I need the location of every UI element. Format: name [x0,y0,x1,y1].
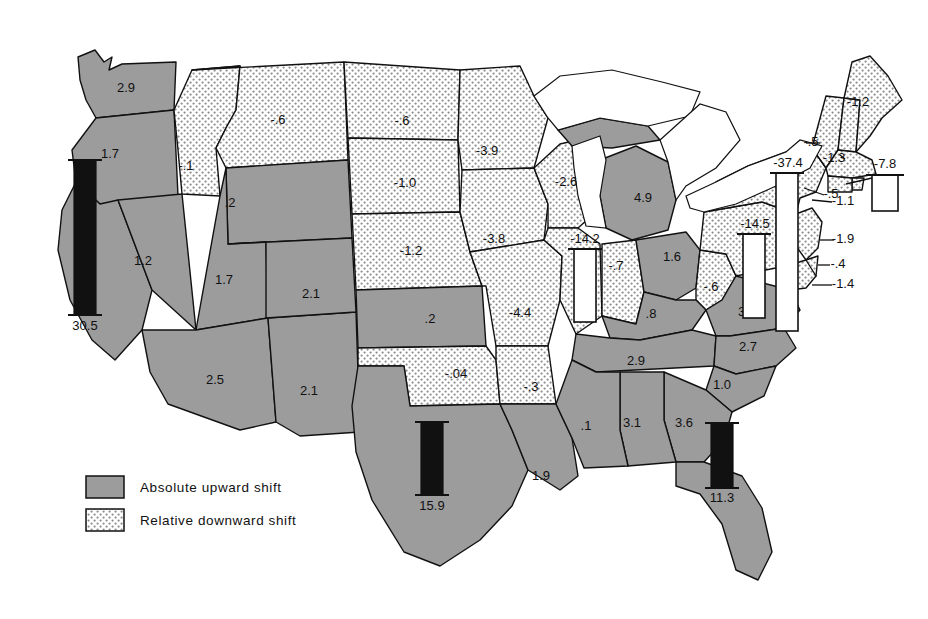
state-value-MN: -3.9 [476,143,498,158]
state-value-LA: 1.9 [532,468,550,483]
state-value-AZ: 2.5 [206,372,224,387]
bar-value-NY: -37.4 [773,155,803,170]
state-value-NC: 2.7 [739,339,757,354]
legend-swatch-downward [86,509,124,531]
state-value-UT: 1.7 [215,272,233,287]
state-value-KY: .8 [646,306,657,321]
state-value-DE: -.4 [830,256,845,271]
state-value-NJ: -1.9 [832,231,854,246]
state-value-WA: 2.9 [117,80,135,95]
state-value-CT: -1.1 [832,193,854,208]
state-value-SD: -1.0 [394,175,416,190]
state-value-KS: .2 [425,311,436,326]
state-value-OH: 1.6 [663,249,681,264]
state-value-GA: 3.6 [675,415,693,430]
state-value-MS: .1 [581,418,592,433]
bar-value-PA: -14.5 [740,216,770,231]
state-value-NH: -1.3 [823,150,845,165]
state-value-SC: 1.0 [713,377,731,392]
us-map-svg: 2.9 1.7 -.1 -.6 -.6 -3.9 -2.6 4.9 1.2 1.… [0,0,928,619]
state-value-ID: -.1 [178,158,193,173]
state-value-OK: -.04 [445,366,467,381]
state-value-AR: -.3 [523,379,538,394]
state-value-WV: -.6 [703,279,718,294]
state-value-NV: 1.2 [134,253,152,268]
state-OH[interactable] [636,232,700,300]
state-MN[interactable] [458,66,548,170]
state-value-NM: 2.1 [300,383,318,398]
state-value-NE: -1.2 [400,243,422,258]
legend-label-downward: Relative downward shift [140,513,296,528]
state-value-MT: -.6 [270,112,285,127]
state-value-WY: .2 [225,195,236,210]
state-value-IA: -3.8 [483,231,505,246]
legend-swatch-upward [86,476,124,498]
lake-superior [534,70,700,130]
state-value-IN: -.7 [608,258,623,273]
bar-value-CA: 30.5 [72,318,97,333]
state-value-ME: -1.2 [847,94,869,109]
state-WY[interactable] [226,160,352,244]
state-value-OR: 1.7 [101,146,119,161]
state-value-AL: 3.1 [623,415,641,430]
bar-value-TX: 15.9 [419,498,444,513]
us-map-figure: 2.9 1.7 -.1 -.6 -.6 -3.9 -2.6 4.9 1.2 1.… [0,0,928,619]
state-value-ND: -.6 [394,113,409,128]
state-NJ[interactable] [796,208,822,260]
state-value-VT: -.5 [803,134,818,149]
state-value-WI: -2.6 [555,174,577,189]
bar-value-FL: 11.3 [710,490,734,505]
state-value-TN: 2.9 [627,353,645,368]
state-value-MD: -1.4 [832,276,854,291]
state-value-MO: -4.4 [509,305,531,320]
bar-value-IL: -14.2 [570,231,600,246]
map-legend: Absolute upward shift Relative downward … [86,476,296,531]
state-KS[interactable] [356,286,486,348]
legend-label-upward: Absolute upward shift [140,480,282,495]
bar-value-MA: -7.8 [874,156,896,171]
state-NM[interactable] [268,312,360,436]
state-value-CO: 2.1 [302,286,320,301]
state-AR[interactable] [496,346,556,404]
state-value-MI: 4.9 [634,190,652,205]
